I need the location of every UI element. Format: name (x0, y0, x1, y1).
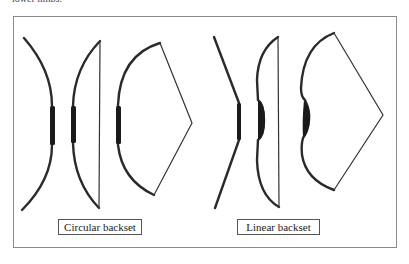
bowstring (278, 37, 279, 207)
circular-drawn-bow (116, 43, 192, 195)
linear-backset-label: Linear backset (237, 219, 320, 235)
grip (237, 103, 241, 140)
linear-unstrung-bow (214, 37, 241, 208)
circular-braced-bow (71, 41, 100, 208)
grip (50, 106, 55, 145)
grip (71, 106, 76, 143)
circular-backset-label: Circular backset (58, 219, 142, 235)
grip (303, 100, 310, 138)
linear-drawn-bow (301, 33, 383, 190)
bowstring (99, 41, 100, 208)
bowstring (334, 33, 383, 190)
grip (116, 106, 121, 144)
grip (258, 100, 265, 140)
bowstring (154, 43, 192, 195)
linear-braced-bow (257, 37, 279, 207)
circular-unstrung-bow (22, 38, 55, 210)
